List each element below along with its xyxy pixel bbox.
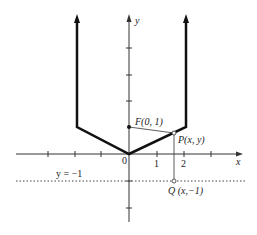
directrix-label: y = −1 — [56, 168, 82, 179]
x-axis-label: x — [235, 156, 241, 167]
coordinate-diagram: y x 0 1 2 F(0, 1) P(x, y) Q (x,−1) y = −… — [0, 0, 257, 235]
point-p-label: P(x, y) — [177, 134, 205, 146]
x-tick-label-1: 1 — [154, 158, 159, 169]
y-axis-label: y — [134, 15, 140, 26]
segment-fp — [129, 127, 174, 133]
focus-point — [127, 125, 131, 129]
x-tick-label-2: 2 — [181, 158, 186, 169]
left-arm-arrow-icon — [74, 14, 80, 23]
right-arm-arrow-icon — [183, 14, 189, 23]
point-p — [172, 131, 176, 135]
point-q-label: Q (x,−1) — [168, 185, 204, 197]
focus-label: F(0, 1) — [134, 116, 163, 128]
y-axis — [126, 14, 132, 222]
point-q — [172, 179, 176, 183]
y-axis-arrow-icon — [127, 14, 132, 22]
origin-label: 0 — [122, 155, 127, 166]
